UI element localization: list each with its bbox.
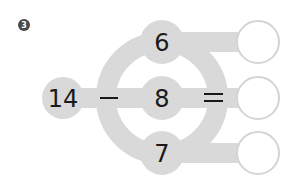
- minus-sign: [100, 97, 118, 99]
- svg-text:3: 3: [21, 21, 27, 30]
- answer-circle-2[interactable]: [237, 77, 279, 119]
- subtrahend-value-2: 8: [154, 85, 169, 113]
- problem-number-badge: 3: [18, 19, 30, 31]
- answer-circle-1[interactable]: [237, 21, 279, 63]
- answer-circle-3[interactable]: [237, 132, 279, 174]
- subtraction-diagram: 3 14 6 8 7: [0, 0, 298, 184]
- minuend-value: 14: [48, 85, 79, 113]
- subtrahend-value-1: 6: [154, 29, 169, 57]
- subtrahend-value-3: 7: [154, 140, 169, 168]
